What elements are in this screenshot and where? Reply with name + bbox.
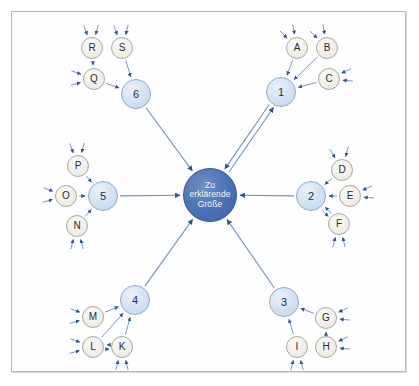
- external-arrow-into-S: [126, 25, 129, 35]
- secondary-node-F[interactable]: F: [328, 213, 350, 235]
- secondary-node-C[interactable]: C: [318, 68, 340, 90]
- edge-line: [289, 319, 293, 334]
- external-arrow-into-N: [81, 240, 84, 250]
- external-arrow-into-I: [301, 361, 304, 371]
- edge-line: [145, 219, 193, 286]
- external-arrow-into-C: [342, 69, 351, 73]
- edge-n5-to-hub: [120, 195, 180, 196]
- edge-S-to-n6: [126, 60, 131, 76]
- secondary-node-D[interactable]: D: [331, 159, 353, 181]
- primary-node-6[interactable]: 6: [121, 79, 151, 109]
- edge-P-to-n5: [86, 176, 91, 182]
- external-arrow-into-L: [70, 339, 79, 342]
- secondary-node-A[interactable]: A: [286, 37, 308, 59]
- edge-line: [70, 321, 80, 324]
- external-arrow-into-H: [340, 348, 350, 349]
- secondary-node-Q[interactable]: Q: [83, 68, 105, 90]
- primary-node-5[interactable]: 5: [88, 181, 118, 211]
- primary-node-2[interactable]: 2: [296, 181, 326, 211]
- edge-line: [126, 361, 129, 371]
- edge-line: [294, 57, 318, 80]
- external-arrow-into-P: [70, 143, 73, 152]
- edge-line: [340, 348, 350, 349]
- external-arrow-into-G: [340, 319, 350, 320]
- edge-line: [82, 143, 85, 153]
- external-arrow-into-N: [71, 240, 74, 250]
- edge-line: [229, 107, 273, 171]
- edge-line: [125, 317, 130, 334]
- edge-line: [84, 25, 87, 34]
- edge-line: [126, 60, 131, 76]
- primary-node-3[interactable]: 3: [269, 287, 299, 317]
- edge-line: [126, 25, 129, 35]
- external-arrow-into-P: [82, 143, 85, 153]
- edge-line: [323, 24, 325, 34]
- external-arrow-into-S: [114, 25, 117, 34]
- secondary-node-B[interactable]: B: [316, 37, 338, 59]
- edge-I-to-n3: [289, 319, 293, 334]
- edge-M-to-n4: [105, 307, 118, 312]
- secondary-node-L[interactable]: L: [82, 336, 104, 358]
- edge-line: [43, 200, 53, 203]
- secondary-node-O[interactable]: O: [55, 185, 77, 207]
- external-arrow-into-E: [364, 197, 374, 198]
- edge-line: [225, 105, 269, 169]
- edge-line: [240, 195, 294, 196]
- external-arrow-into-Q: [71, 71, 80, 74]
- secondary-node-E[interactable]: E: [339, 185, 361, 207]
- external-arrow-into-K: [116, 361, 119, 371]
- external-arrow-into-D: [346, 147, 349, 157]
- edge-K-to-L-bidirectional: [107, 345, 109, 349]
- edge-n1-to-hub-bidirectional: [225, 105, 274, 172]
- secondary-node-N[interactable]: N: [66, 215, 88, 237]
- external-arrow-into-L: [70, 351, 80, 354]
- secondary-node-I[interactable]: I: [286, 336, 308, 358]
- edge-line: [364, 197, 374, 198]
- diagram-canvas: ZuerklärendeGröße123456ABCDEFGHIKLMNOPQR…: [0, 0, 419, 386]
- external-arrow-into-F: [343, 238, 346, 248]
- edge-line: [343, 238, 346, 248]
- edge-line: [102, 313, 123, 337]
- edge-line: [291, 361, 294, 371]
- secondary-node-S[interactable]: S: [111, 37, 133, 59]
- primary-node-1[interactable]: 1: [266, 77, 296, 107]
- secondary-node-G[interactable]: G: [315, 307, 337, 329]
- external-arrow-into-K: [126, 361, 129, 371]
- external-arrow-into-A: [293, 24, 295, 34]
- secondary-node-R[interactable]: R: [81, 37, 103, 59]
- edge-line: [346, 147, 349, 157]
- external-arrow-into-C: [343, 80, 353, 81]
- edge-Q-to-n6: [106, 83, 119, 88]
- edge-line: [301, 308, 314, 313]
- external-arrow-into-M: [70, 321, 80, 324]
- edge-n6-to-hub: [146, 108, 192, 171]
- edge-L-to-n4: [102, 313, 123, 337]
- edge-n4-to-hub: [145, 219, 193, 286]
- edge-line: [96, 25, 99, 35]
- edge-N-to-n5: [86, 210, 92, 217]
- hub-node-target-variable[interactable]: ZuerklärendeGröße: [183, 168, 237, 222]
- external-arrow-into-H: [339, 337, 348, 341]
- primary-node-4[interactable]: 4: [120, 285, 150, 315]
- secondary-node-H[interactable]: H: [315, 336, 337, 358]
- edge-line: [71, 83, 81, 86]
- external-arrow-into-I: [291, 361, 294, 371]
- edge-line: [322, 210, 328, 216]
- external-arrow-into-E: [363, 186, 372, 190]
- edge-line: [70, 309, 79, 312]
- secondary-node-P[interactable]: P: [67, 155, 89, 177]
- edge-line: [342, 69, 351, 73]
- edge-line: [86, 210, 92, 217]
- edge-line: [105, 307, 118, 312]
- edge-line: [330, 149, 335, 158]
- edge-A-to-n1: [287, 60, 292, 75]
- edge-B-to-n1: [294, 57, 318, 80]
- edge-line: [114, 25, 117, 34]
- secondary-node-M[interactable]: M: [82, 306, 104, 328]
- edge-C-to-n1: [298, 82, 316, 87]
- edge-line: [106, 83, 119, 88]
- edge-line: [43, 188, 52, 191]
- secondary-node-K[interactable]: K: [111, 336, 133, 358]
- external-arrow-into-O: [43, 188, 52, 191]
- edge-line: [325, 207, 331, 213]
